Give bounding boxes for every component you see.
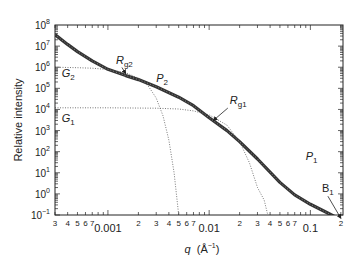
x-tick-label: 0.1 bbox=[303, 222, 318, 234]
x-tick-label: 3 bbox=[255, 219, 260, 228]
x-tick-label: 3 bbox=[154, 219, 159, 228]
x-tick-label: 5 bbox=[75, 219, 80, 228]
axis-ticks bbox=[55, 25, 343, 215]
x-tick-label: 4 bbox=[268, 219, 273, 228]
y-tick-label: 102 bbox=[35, 145, 50, 158]
x-tick-label: 4 bbox=[167, 219, 172, 228]
annotation-g2: G2 bbox=[62, 67, 76, 82]
x-tick-label: 0.001 bbox=[94, 222, 122, 234]
saxs-log-log-chart: 10810710610510410310210110010−1 345670.0… bbox=[0, 0, 356, 277]
x-tick-label: 4 bbox=[65, 219, 70, 228]
x-tick-label: 7 bbox=[191, 219, 196, 228]
y-tick-label: 104 bbox=[35, 102, 50, 115]
x-axis-exp: −1 bbox=[208, 242, 216, 249]
x-tick-label: 5 bbox=[176, 219, 181, 228]
annotation-rg2: Rg2 bbox=[116, 54, 133, 69]
annotation-b1: B1 bbox=[322, 182, 334, 197]
x-axis-var: q bbox=[185, 243, 192, 255]
x-axis-close: ) bbox=[216, 243, 220, 255]
x-tick-label: 2 bbox=[237, 219, 242, 228]
y-tick-label: 108 bbox=[35, 18, 50, 31]
guinier-curve bbox=[55, 108, 268, 215]
y-tick-label: 10−1 bbox=[31, 208, 50, 221]
annotation-g1: G1 bbox=[62, 112, 76, 127]
y-tick-labels: 10810710610510410310210110010−1 bbox=[31, 18, 50, 221]
y-tick-label: 103 bbox=[35, 124, 50, 137]
arrow-icon bbox=[213, 108, 227, 120]
x-tick-label: 2 bbox=[136, 219, 141, 228]
x-tick-label: 0.01 bbox=[198, 222, 219, 234]
plot-frame bbox=[55, 25, 343, 215]
annotation-p1: P1 bbox=[306, 150, 318, 165]
y-tick-label: 105 bbox=[35, 81, 50, 94]
x-tick-label: 3 bbox=[53, 219, 58, 228]
data-curve bbox=[55, 35, 341, 220]
annotation-p2: P2 bbox=[156, 72, 168, 87]
x-tick-label: 2 bbox=[339, 219, 344, 228]
x-tick-label: 6 bbox=[184, 219, 189, 228]
annotation-rg1: Rg1 bbox=[230, 94, 247, 109]
y-tick-label: 107 bbox=[35, 39, 50, 52]
x-tick-label: 6 bbox=[83, 219, 88, 228]
annotations: G2G1Rg2P2Rg1P1B1 bbox=[62, 54, 341, 219]
x-tick-label: 7 bbox=[292, 219, 297, 228]
x-tick-label: 6 bbox=[286, 219, 291, 228]
x-axis-unit: (Å bbox=[197, 243, 209, 255]
y-tick-label: 106 bbox=[35, 60, 50, 73]
y-axis-label: Relative intensity bbox=[12, 78, 24, 162]
x-axis-label: q (Å−1) bbox=[185, 242, 220, 255]
x-tick-labels: 345670.0012345670.012345670.12 bbox=[53, 219, 344, 234]
plot-curves bbox=[55, 35, 341, 220]
y-tick-label: 100 bbox=[35, 187, 50, 200]
x-tick-label: 5 bbox=[278, 219, 283, 228]
y-tick-label: 101 bbox=[35, 166, 50, 179]
